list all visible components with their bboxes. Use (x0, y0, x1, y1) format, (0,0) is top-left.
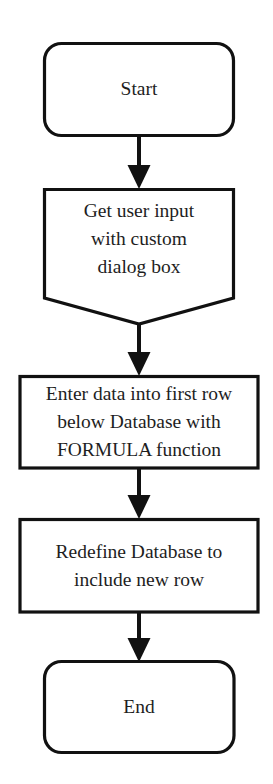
enter-data-label-line: below Database with (57, 408, 221, 436)
redefine-label-line: Redefine Database to (56, 538, 223, 566)
end-label: End (46, 664, 232, 750)
enter-data-label-line: Enter data into first row (46, 380, 232, 408)
input-label: Get user input with custom dialog box (46, 194, 232, 284)
arrowhead-icon (128, 165, 151, 189)
arrowhead-icon (128, 638, 151, 662)
end-label-line: End (123, 693, 154, 721)
input-label-line: with custom (91, 225, 187, 253)
arrowhead-icon (128, 352, 151, 376)
input-label-line: Get user input (84, 197, 194, 225)
arrow-input-to-enter-data (128, 324, 151, 376)
arrow-start-to-input (128, 135, 151, 189)
arrowhead-icon (128, 495, 151, 519)
input-label-line: dialog box (98, 253, 181, 281)
enter-data-label: Enter data into first row below Database… (22, 379, 256, 465)
redefine-label-line: include new row (74, 566, 204, 594)
arrow-enter-data-to-redefine (128, 468, 151, 519)
arrow-redefine-to-end (128, 612, 151, 662)
redefine-label: Redefine Database to include new row (22, 522, 256, 610)
flowchart: Start Get user input with custom dialog … (0, 0, 273, 784)
enter-data-label-line: FORMULA function (57, 436, 221, 464)
start-label: Start (46, 45, 232, 133)
start-label-line: Start (121, 75, 158, 103)
